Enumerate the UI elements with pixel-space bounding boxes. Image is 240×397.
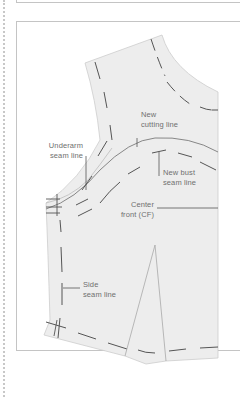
- label-new-cutting-line: New cutting line: [141, 110, 178, 130]
- label-side-seam-line: Side seam line: [83, 280, 116, 300]
- label-new-bust-seam-line: New bust seam line: [163, 168, 196, 188]
- label-center-front: Center front (CF): [118, 200, 154, 220]
- label-underarm-seam-line: Underarm seam line: [41, 141, 83, 161]
- bodice-pattern-diagram: [0, 0, 240, 397]
